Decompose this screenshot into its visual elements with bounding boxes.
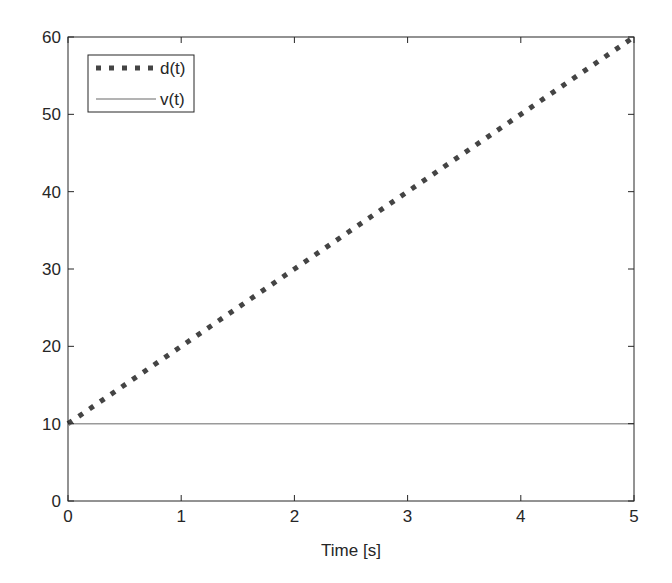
x-tick-labels: 012345 (63, 507, 638, 526)
y-tick-labels: 0102030405060 (42, 28, 61, 511)
y-tick-label: 30 (42, 260, 61, 279)
y-tick-label: 0 (52, 492, 61, 511)
y-tick-label: 40 (42, 183, 61, 202)
y-tick-label: 50 (42, 105, 61, 124)
x-tick-label: 5 (629, 507, 638, 526)
x-tick-label: 1 (176, 507, 185, 526)
x-tick-label: 2 (290, 507, 299, 526)
y-tick-label: 20 (42, 337, 61, 356)
legend-label: d(t) (160, 59, 186, 78)
legend: d(t)v(t) (88, 55, 194, 112)
line-chart: 012345 0102030405060 Time [s] d(t)v(t) (0, 0, 672, 583)
x-tick-label: 0 (63, 507, 72, 526)
y-tick-label: 10 (42, 415, 61, 434)
x-tick-label: 3 (403, 507, 412, 526)
x-tick-label: 4 (516, 507, 525, 526)
legend-label: v(t) (160, 90, 185, 109)
y-tick-label: 60 (42, 28, 61, 47)
x-axis-label: Time [s] (321, 541, 381, 560)
